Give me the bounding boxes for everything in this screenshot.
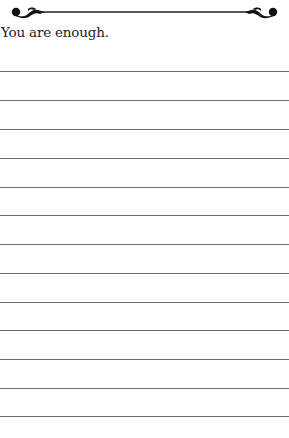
- ruled-line: [0, 100, 289, 101]
- ruled-lines: [0, 0, 289, 438]
- ruled-line: [0, 244, 289, 245]
- ruled-line: [0, 158, 289, 159]
- ruled-line: [0, 330, 289, 331]
- ruled-line: [0, 129, 289, 130]
- ruled-line: [0, 388, 289, 389]
- ruled-line: [0, 359, 289, 360]
- ruled-line: [0, 273, 289, 274]
- ruled-line: [0, 71, 289, 72]
- ruled-line: [0, 187, 289, 188]
- ruled-line: [0, 416, 289, 417]
- ruled-line: [0, 215, 289, 216]
- ruled-line: [0, 302, 289, 303]
